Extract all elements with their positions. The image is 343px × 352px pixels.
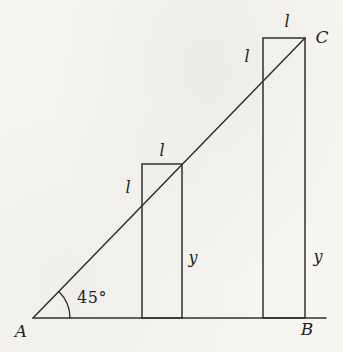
vertex-label-c: C — [315, 29, 328, 46]
angle-45-label: 45° — [77, 290, 107, 306]
large-rect-side-label: l — [244, 49, 249, 65]
hypotenuse-ac — [33, 38, 305, 318]
large-rectangle — [263, 38, 305, 318]
small-rect-top-label: l — [159, 143, 164, 159]
large-rect-top-label: l — [284, 14, 289, 30]
large-rect-height-label: y — [313, 249, 322, 265]
small-rectangle — [142, 164, 182, 318]
vertex-label-b: B — [301, 321, 314, 338]
vertex-label-a: A — [15, 323, 27, 340]
small-rect-side-label: l — [125, 180, 130, 196]
figure-lines — [0, 0, 343, 352]
geometry-figure: A B C 45° l l y l l y — [0, 0, 343, 352]
angle-arc — [59, 292, 70, 319]
small-rect-height-label: y — [188, 250, 197, 266]
